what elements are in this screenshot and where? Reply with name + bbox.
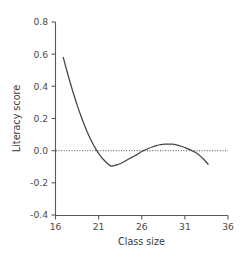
x-tick-labels: 16 21 26 31 36 [50,221,234,232]
y-tick-label-0.8: 0.8 [33,16,48,27]
literacy-score-line-chart: 0.8 0.6 0.4 0.2 0.0 -0.2 -0.4 Literacy s… [0,0,245,260]
x-tick-label-36: 36 [222,221,234,232]
literacy-score-curve [63,57,208,166]
x-tick-label-31: 31 [179,221,191,232]
y-tick-label-0.0: 0.0 [33,145,48,156]
y-tick-label-0.2: 0.2 [33,113,48,124]
x-axis-group: 16 21 26 31 36 Class size [50,216,234,248]
y-axis-group: 0.8 0.6 0.4 0.2 0.0 -0.2 -0.4 Literacy s… [11,16,56,220]
y-tick-marks [52,22,56,215]
x-tick-marks [56,216,229,220]
y-tick-label--0.2: -0.2 [30,177,48,188]
y-tick-label--0.4: -0.4 [30,209,48,220]
x-tick-label-16: 16 [50,221,62,232]
x-tick-label-26: 26 [136,221,148,232]
y-tick-label-0.6: 0.6 [33,49,48,60]
x-axis-title: Class size [118,236,165,247]
x-tick-label-21: 21 [93,221,105,232]
y-axis-title: Literacy score [11,85,22,152]
y-tick-label-0.4: 0.4 [33,81,48,92]
chart-figure: 0.8 0.6 0.4 0.2 0.0 -0.2 -0.4 Literacy s… [0,0,245,260]
y-tick-labels: 0.8 0.6 0.4 0.2 0.0 -0.2 -0.4 [30,16,48,220]
